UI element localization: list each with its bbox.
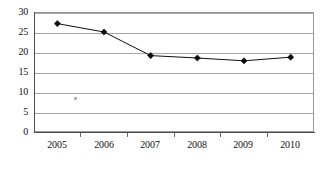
x-tick-mark-2 [127,133,128,137]
x-tick-label-2005: 2005 [34,139,80,150]
scan-artifact-speck [74,97,77,100]
gridline-20 [35,53,313,54]
y-tick-label-20: 20 [4,47,28,57]
x-tick-mark-5 [267,133,268,137]
gridline-25 [35,33,313,34]
x-tick-label-2010: 2010 [267,139,313,150]
y-tick-label-0: 0 [4,127,28,137]
x-tick-label-2007: 2007 [127,139,173,150]
x-tick-mark-3 [174,133,175,137]
y-tick-label-25: 25 [4,27,28,37]
y-tick-label-5: 5 [4,107,28,117]
x-tick-label-2006: 2006 [81,139,127,150]
x-tick-label-2008: 2008 [174,139,220,150]
y-tick-label-10: 10 [4,87,28,97]
gridline-30 [35,13,313,14]
x-tick-label-2009: 2009 [220,139,266,150]
gridline-10 [35,93,313,94]
y-tick-label-15: 15 [4,67,28,77]
y-tick-label-30: 30 [4,7,28,17]
y-axis-line [34,12,35,133]
x-tick-mark-1 [80,133,81,137]
plot-area [34,12,314,132]
x-tick-mark-4 [220,133,221,137]
gridline-15 [35,73,313,74]
gridline-5 [35,113,313,114]
line-chart-figure: 30 25 20 15 10 5 0 2005 2006 2007 2008 2… [0,0,329,174]
